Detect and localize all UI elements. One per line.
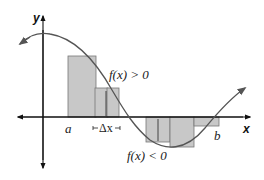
rect-1 <box>68 56 96 117</box>
rect-5 <box>170 117 194 147</box>
rect-6 <box>194 117 219 126</box>
y-axis-label: y <box>32 11 41 25</box>
x-axis-label: x <box>242 122 251 136</box>
label-delta-x: Δx <box>99 121 113 135</box>
delta-x-marker: Δx <box>93 121 120 135</box>
positive-rectangles <box>68 56 119 117</box>
riemann-sum-diagram: y x a b Δx f(x) > 0 f(x) < 0 <box>0 0 264 180</box>
negative-rectangles <box>146 117 219 147</box>
label-positive: f(x) > 0 <box>109 67 149 82</box>
label-a: a <box>65 121 72 136</box>
label-negative: f(x) < 0 <box>127 148 167 163</box>
function-curve <box>20 33 245 147</box>
label-b: b <box>214 128 221 143</box>
